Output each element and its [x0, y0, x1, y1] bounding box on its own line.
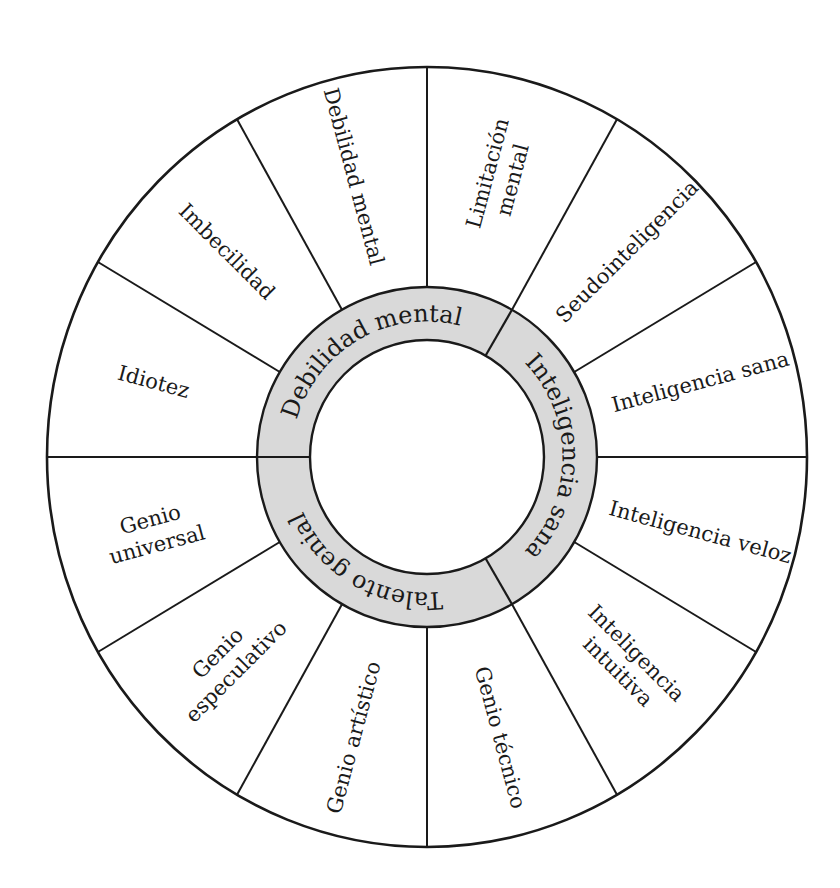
classification-wheel: Debilidad mentalInteligencia sanaTalento… [0, 0, 840, 888]
center-circle [310, 340, 544, 574]
